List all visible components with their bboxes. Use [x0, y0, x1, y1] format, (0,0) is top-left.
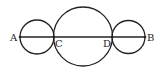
diagram-canvas: A C D B — [0, 0, 160, 78]
point-b — [144, 36, 147, 39]
label-b: B — [147, 32, 154, 43]
point-d — [111, 36, 113, 38]
label-a: A — [9, 32, 18, 43]
label-d: D — [103, 38, 111, 49]
label-c: C — [55, 38, 63, 49]
point-a — [19, 36, 22, 39]
